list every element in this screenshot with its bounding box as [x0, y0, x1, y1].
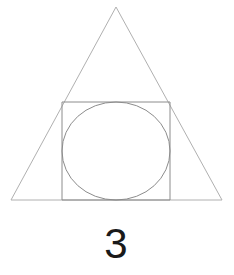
triangle-shape	[11, 7, 222, 200]
figure-canvas: 3	[0, 0, 234, 275]
geometry-figure: 3	[0, 0, 234, 275]
figure-label-number: 3	[104, 220, 127, 267]
square-shape	[62, 102, 170, 200]
circle-shape	[62, 102, 170, 200]
